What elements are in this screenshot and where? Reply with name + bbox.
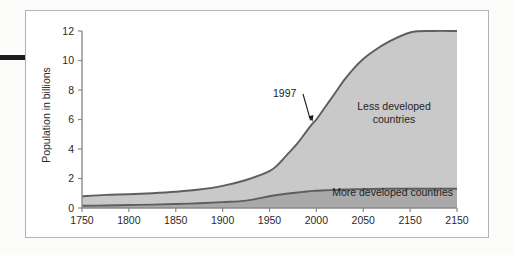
x-tick-label: 1800: [117, 214, 141, 226]
x-tick-label: 1900: [211, 214, 235, 226]
y-tick-label: 0: [68, 202, 74, 214]
y-tick-label: 6: [68, 113, 74, 125]
chart-svg: 024681012 175018001850190019502000205021…: [0, 0, 513, 255]
series-label-more-developed: More developed countries: [332, 186, 453, 198]
x-tick-label: 2000: [305, 214, 329, 226]
annotation-1997-label: 1997: [273, 87, 297, 99]
x-tick-label: 2150: [398, 214, 422, 226]
series-label-less-developed-line2: countries: [373, 113, 416, 125]
series-label-less-developed-line1: Less developed: [357, 100, 431, 112]
y-tick-label: 4: [68, 143, 74, 155]
x-axis-tick-labels: 175018001850190019502000205021502150: [70, 214, 469, 226]
y-tick-label: 8: [68, 84, 74, 96]
plot-area: 024681012 175018001850190019502000205021…: [0, 0, 513, 255]
y-tick-label: 12: [62, 25, 74, 37]
x-tick-label: 2050: [352, 214, 376, 226]
annotation-1997: 1997: [273, 87, 313, 121]
y-axis-title: Population in billions: [40, 67, 52, 163]
y-axis-tick-labels: 024681012: [62, 25, 74, 214]
x-tick-label: 1850: [164, 214, 188, 226]
x-tick-label: 2150: [445, 214, 469, 226]
y-tick-label: 2: [68, 172, 74, 184]
x-tick-label: 1750: [70, 214, 94, 226]
y-tick-label: 10: [62, 54, 74, 66]
figure-canvas: 024681012 175018001850190019502000205021…: [0, 0, 513, 255]
x-tick-label: 1950: [258, 214, 282, 226]
